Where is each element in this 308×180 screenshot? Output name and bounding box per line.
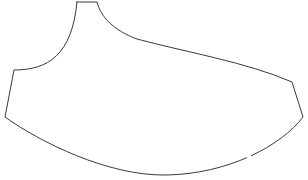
line-drawing-canvas xyxy=(0,0,308,180)
bottom-right-gap-mask xyxy=(247,154,251,158)
canvas-background xyxy=(0,0,308,180)
outline-shape-svg xyxy=(0,0,308,180)
bottom-left-gap-mask xyxy=(85,154,89,158)
